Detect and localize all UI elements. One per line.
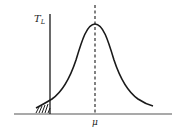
hatched-tail-region — [36, 104, 50, 113]
bell-curve-diagram: TL μ — [0, 0, 181, 134]
y-axis-label: TL — [34, 13, 45, 26]
mean-label: μ — [92, 117, 98, 127]
